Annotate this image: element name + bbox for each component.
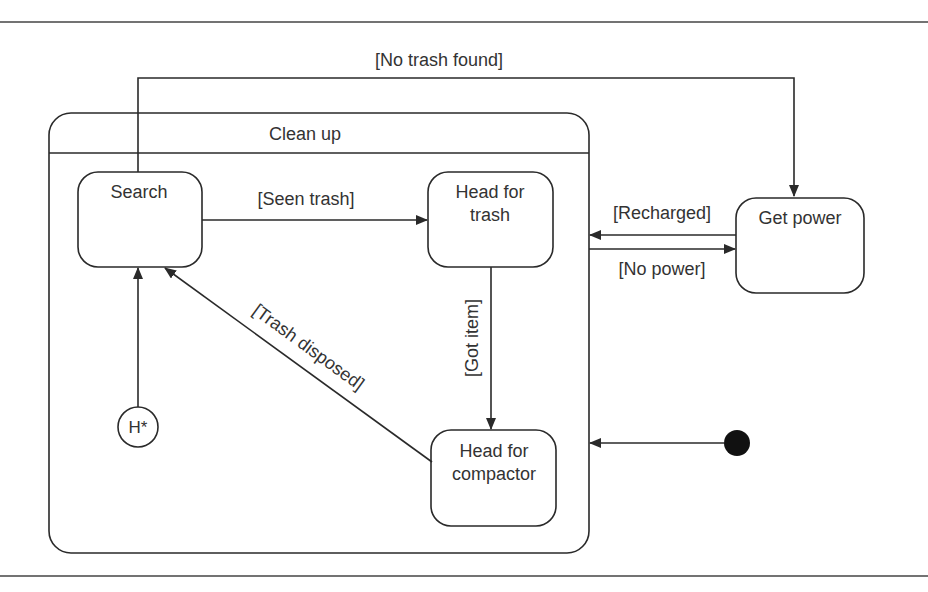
history-label: H* (129, 418, 148, 437)
no-power-label: [No power] (618, 259, 705, 279)
state-head-for-compactor[interactable]: Head for compactor (431, 430, 556, 526)
initial-state[interactable] (590, 430, 750, 456)
head-for-compactor-label-line1: Head for (459, 441, 528, 461)
no-trash-found-label: [No trash found] (375, 50, 503, 70)
transition-no-power[interactable]: [No power] (589, 249, 735, 279)
got-item-label: [Got item] (462, 299, 482, 377)
search-label: Search (110, 182, 167, 202)
state-search[interactable]: Search (78, 172, 202, 267)
state-diagram: Clean up [No trash found] Search [Seen t… (0, 0, 928, 592)
transition-recharged[interactable]: [Recharged] (590, 203, 736, 235)
clean-up-label: Clean up (269, 124, 341, 144)
recharged-label: [Recharged] (613, 203, 711, 223)
head-for-compactor-label-line2: compactor (452, 464, 536, 484)
head-for-trash-label-line2: trash (470, 205, 510, 225)
head-for-trash-label-line1: Head for (455, 182, 524, 202)
initial-dot (724, 430, 750, 456)
get-power-label: Get power (758, 208, 841, 228)
state-get-power[interactable]: Get power (736, 198, 864, 293)
seen-trash-label: [Seen trash] (257, 189, 354, 209)
state-head-for-trash[interactable]: Head for trash (428, 172, 553, 267)
